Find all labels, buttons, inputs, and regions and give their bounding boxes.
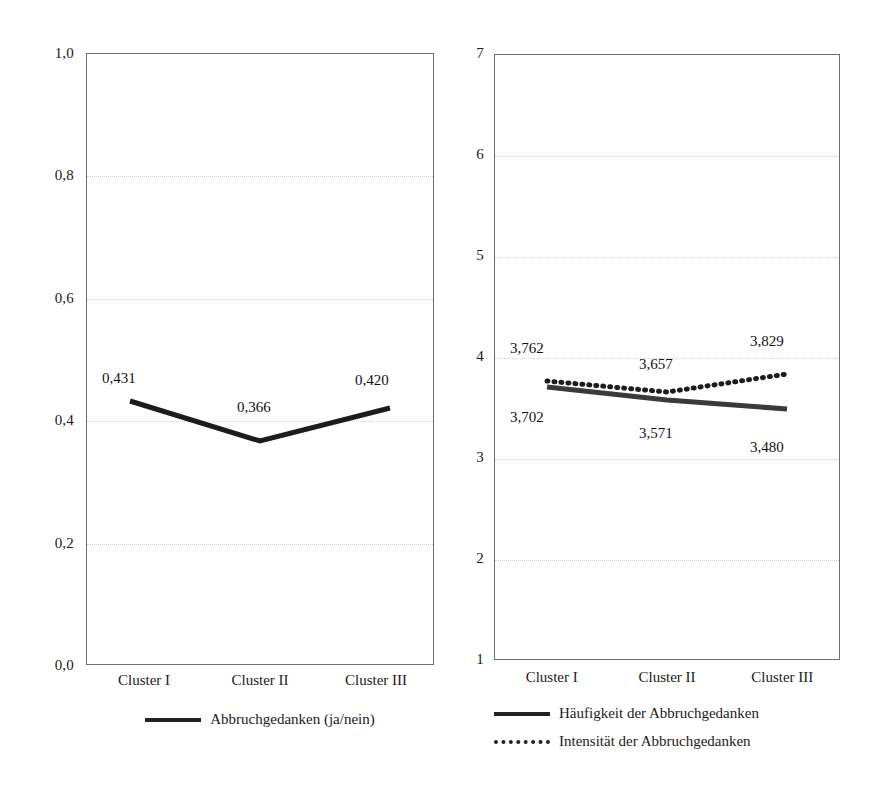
x-axis-labels-left: Cluster I Cluster II Cluster III	[86, 673, 434, 688]
data-value-label: 0,431	[102, 371, 136, 386]
y-tick-label: 0,0	[30, 658, 74, 673]
legend-item: Abbruchgedanken (ja/nein)	[86, 712, 434, 727]
x-tick-label: Cluster III	[725, 670, 840, 685]
y-tick-label: 0,6	[30, 291, 74, 306]
figure-container: 1,0 0,8 0,6 0,4 0,2 0,0 0,431 0,366 0,42…	[0, 0, 883, 806]
data-value-label-haeufigkeit: 3,702	[510, 410, 544, 425]
legend-item: Häufigkeit der Abbruchgedanken	[494, 706, 874, 721]
y-tick-label: 0,8	[30, 168, 74, 183]
data-value-label-intensitaet: 3,657	[639, 357, 673, 372]
x-tick-label: Cluster II	[202, 673, 318, 688]
x-tick-label: Cluster III	[318, 673, 434, 688]
data-value-label-intensitaet: 3,829	[750, 334, 784, 349]
y-tick-label: 0,2	[30, 536, 74, 551]
legend-left: Abbruchgedanken (ja/nein)	[86, 712, 434, 740]
chart-panel-right: 7 6 5 4 3 2 1 3,762 3,657 3,829 3,702	[450, 0, 883, 806]
legend-label: Intensität der Abbruchgedanken	[559, 734, 751, 749]
x-tick-label: Cluster II	[609, 670, 724, 685]
data-value-label-haeufigkeit: 3,571	[639, 426, 673, 441]
plot-area-left	[86, 53, 434, 665]
data-value-label: 0,366	[237, 400, 271, 415]
chart-panel-left: 1,0 0,8 0,6 0,4 0,2 0,0 0,431 0,366 0,42…	[0, 0, 450, 806]
legend-solid-line-icon	[145, 715, 201, 725]
data-value-label-haeufigkeit: 3,480	[750, 440, 784, 455]
x-tick-label: Cluster I	[494, 670, 609, 685]
legend-solid-line-icon	[494, 709, 550, 719]
data-value-label: 0,420	[355, 373, 389, 388]
y-tick-label: 6	[462, 147, 484, 162]
x-tick-label: Cluster I	[86, 673, 202, 688]
y-tick-label: 0,4	[30, 413, 74, 428]
y-tick-label: 4	[462, 349, 484, 364]
y-tick-label: 2	[462, 551, 484, 566]
y-tick-label: 5	[462, 248, 484, 263]
y-tick-label: 3	[462, 450, 484, 465]
data-value-label-intensitaet: 3,762	[510, 341, 544, 356]
legend-dotted-line-icon	[494, 737, 550, 747]
legend-item: Intensität der Abbruchgedanken	[494, 734, 874, 749]
x-axis-labels-right: Cluster I Cluster II Cluster III	[494, 670, 840, 685]
legend-label: Abbruchgedanken (ja/nein)	[210, 712, 375, 727]
legend-right: Häufigkeit der Abbruchgedanken Intensitä…	[494, 706, 874, 762]
y-tick-label: 1,0	[30, 46, 74, 61]
y-tick-label: 1	[462, 652, 484, 667]
legend-label: Häufigkeit der Abbruchgedanken	[559, 706, 759, 721]
y-tick-label: 7	[462, 46, 484, 61]
data-line-layer-left	[87, 54, 433, 664]
